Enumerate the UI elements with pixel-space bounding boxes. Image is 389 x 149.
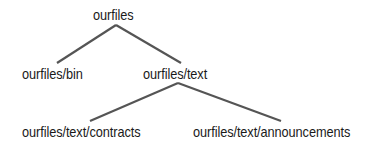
node-announcements: ourfiles/text/announcements <box>193 124 350 140</box>
node-text: ourfiles/text <box>143 66 207 82</box>
node-contracts: ourfiles/text/contracts <box>22 124 141 140</box>
node-bin: ourfiles/bin <box>22 66 83 82</box>
edge-text-to-announcements <box>178 83 281 121</box>
edge-root-to-bin <box>57 25 116 63</box>
edge-root-to-text <box>116 25 181 63</box>
edge-text-to-contracts <box>90 83 178 121</box>
directory-tree-diagram: ourfiles ourfiles/bin ourfiles/text ourf… <box>0 0 389 149</box>
node-root: ourfiles <box>93 7 133 23</box>
